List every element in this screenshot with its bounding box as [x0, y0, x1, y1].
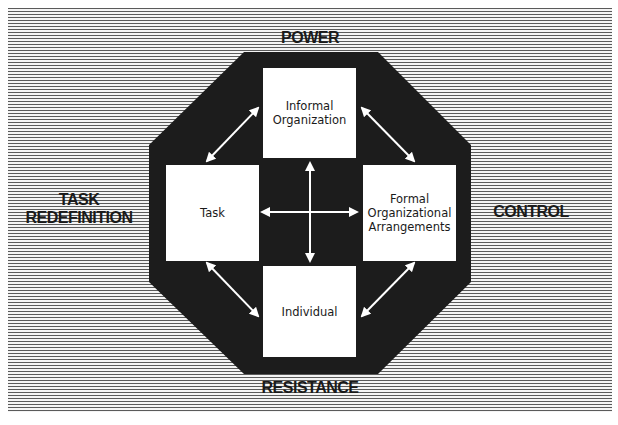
box-informal-line1: Informal	[273, 99, 347, 113]
label-power-text: POWER	[250, 29, 370, 47]
box-task-line1: Task	[200, 206, 225, 220]
box-formal-line2: Organizational	[368, 206, 452, 220]
box-formal-organizational-arrangements: Formal Organizational Arrangements	[363, 165, 456, 261]
box-informal-line2: Organization	[273, 113, 347, 127]
box-formal-line3: Arrangements	[368, 220, 452, 234]
box-informal-organization: Informal Organization	[263, 68, 356, 158]
label-control-text: CONTROL	[476, 203, 586, 221]
label-resistance: RESISTANCE	[230, 379, 390, 397]
label-task-redefinition-line1: TASK	[14, 191, 144, 209]
label-control: CONTROL	[476, 203, 586, 221]
box-individual-line1: Individual	[281, 305, 337, 319]
box-task: Task	[166, 165, 259, 261]
box-individual: Individual	[263, 266, 356, 357]
label-power: POWER	[250, 29, 370, 47]
box-formal-line1: Formal	[368, 192, 452, 206]
label-resistance-text: RESISTANCE	[230, 379, 390, 397]
label-task-redefinition-line2: REDEFINITION	[14, 209, 144, 227]
label-task-redefinition: TASK REDEFINITION	[14, 191, 144, 227]
